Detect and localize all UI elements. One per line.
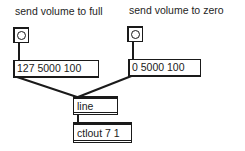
message-box-full[interactable]: 127 5000 100 — [13, 60, 99, 78]
bang-button-zero[interactable] — [127, 26, 143, 42]
object-box-ctlout[interactable]: ctlout 7 1 — [73, 122, 132, 143]
outlet-bar — [74, 140, 131, 141]
bang-circle-icon — [131, 30, 140, 39]
object-text-line: line — [77, 100, 93, 112]
object-box-line[interactable]: line — [73, 96, 118, 115]
inlet-bar — [74, 123, 131, 125]
outlet-bar — [74, 112, 117, 113]
cord-msg-full-to-line — [17, 77, 77, 97]
object-text-ctlout: ctlout 7 1 — [77, 127, 120, 139]
cord-msg-zero-to-line — [78, 75, 134, 97]
comment-send-volume-zero: send volume to zero — [129, 4, 224, 16]
bang-circle-icon — [17, 31, 26, 40]
bang-button-full[interactable] — [13, 27, 29, 43]
comment-send-volume-full: send volume to full — [15, 5, 103, 17]
message-box-zero[interactable]: 0 5000 100 — [128, 59, 201, 77]
inlet-bar — [74, 97, 117, 99]
